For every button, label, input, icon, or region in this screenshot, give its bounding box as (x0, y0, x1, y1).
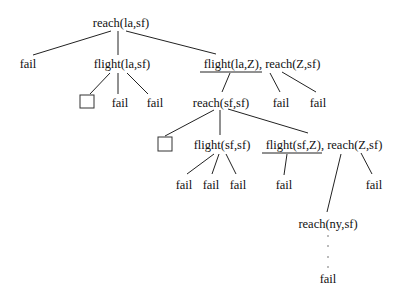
flight-la-sf-edges (90, 73, 148, 94)
node-l4-fail-d: fail (276, 178, 293, 192)
success-box-1 (80, 95, 94, 108)
node-l1-conj: flight(la,Z), reach(Z,sf) (204, 57, 321, 71)
node-l1-fail: fail (20, 57, 37, 71)
node-l5-reach: reach(ny,sf) (298, 217, 357, 231)
node-l3-conj: flight(sf,Z), reach(Z,sf) (266, 138, 383, 152)
node-l2-fail-b: fail (147, 96, 164, 110)
node-l2-reach: reach(sf,sf) (193, 96, 250, 110)
node-l2-fail-c: fail (273, 96, 290, 110)
root-edges (33, 31, 216, 55)
flight-sf-sf-edges (187, 154, 236, 174)
node-l1-flight: flight(la,sf) (94, 57, 151, 71)
node-l3-flight: flight(sf,sf) (194, 138, 251, 152)
conj-la-edges (222, 72, 316, 92)
success-box-2 (158, 137, 172, 151)
node-l2-fail-a: fail (112, 96, 129, 110)
node-l2-fail-d: fail (310, 96, 327, 110)
conj-sf-edges (284, 153, 372, 212)
node-root: reach(la,sf) (93, 16, 150, 30)
node-l6-fail: fail (320, 272, 337, 286)
search-tree-diagram: reach(la,sf) fail flight(la,sf) flight(l… (0, 0, 402, 301)
node-l4-fail-b: fail (203, 178, 220, 192)
node-l4-fail-e: fail (366, 178, 383, 192)
reach-sf-sf-edges (165, 109, 308, 136)
node-l4-fail-a: fail (176, 178, 193, 192)
ellipsis-dots (327, 235, 328, 267)
node-l4-fail-c: fail (230, 178, 247, 192)
